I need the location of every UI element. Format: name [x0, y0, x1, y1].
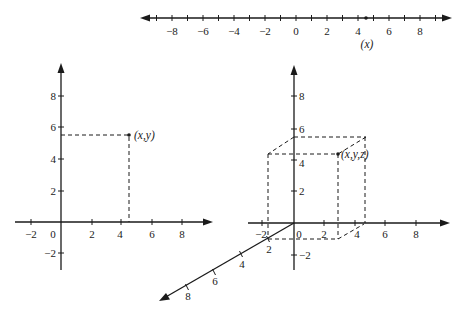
- tick-label: 6: [382, 228, 388, 240]
- tick-label: 4: [299, 157, 305, 169]
- tick-label: 2: [89, 228, 95, 240]
- point-x-marker: [364, 16, 368, 20]
- tick-label: 6: [149, 228, 155, 240]
- tick-label: 6: [212, 275, 218, 287]
- tick-label: −6: [197, 25, 209, 37]
- coordinate-diagram: −8 −6 −4 −2 0 2 4 6 8 (x) (x,y) −2: [0, 0, 463, 318]
- y-axis-arrow-icon: [159, 293, 170, 301]
- point-label-xy: (x,y): [134, 129, 155, 142]
- tick-label: −2: [255, 228, 267, 240]
- tick-label: −2: [299, 249, 311, 261]
- y-axis-arrow-icon: [58, 63, 65, 73]
- tick-label: 0: [293, 25, 299, 37]
- point-label-x: (x): [361, 38, 374, 51]
- tick-label: 8: [51, 90, 57, 102]
- tick-label: 4: [355, 25, 361, 37]
- tick-label: 4: [117, 228, 123, 240]
- point-label-xyz: (x,y,z): [341, 148, 369, 161]
- x-axis-arrow-icon: [203, 219, 213, 226]
- plane-2d: (x,y) −2 0 2 4 6 8 8 6 4 2 −2: [15, 63, 213, 270]
- tick-label: 4: [239, 258, 245, 270]
- tick-label: 8: [179, 228, 185, 240]
- tick-label: 0: [50, 228, 56, 240]
- tick-label: 6: [386, 25, 392, 37]
- tick-label: −2: [259, 25, 271, 37]
- point-xyz-marker: [336, 152, 340, 156]
- tick-label: −2: [44, 247, 56, 259]
- tick-label: −4: [228, 25, 240, 37]
- tick-label: −8: [166, 25, 178, 37]
- tick-label: 6: [51, 121, 57, 133]
- tick-label: 2: [299, 185, 305, 197]
- tick-label: 2: [51, 185, 57, 197]
- tick-label: 8: [185, 290, 191, 302]
- projection-lines: [61, 135, 129, 222]
- tick-label: 8: [413, 228, 419, 240]
- tick-label: 0: [296, 228, 302, 240]
- space-3d: (x,y,z) −2 0 2 4 6 8 8 6 4 2 −2 2 4 6 8: [159, 65, 450, 302]
- tick-label: 4: [354, 228, 360, 240]
- point-xy-marker: [127, 133, 131, 137]
- left-arrow-icon: [140, 15, 150, 22]
- right-arrow-icon: [442, 15, 452, 22]
- tick-label: 6: [299, 123, 305, 135]
- tick-label: −2: [25, 228, 37, 240]
- tick-label: 8: [299, 90, 305, 102]
- tick-label: 8: [417, 25, 423, 37]
- tick-label: 2: [266, 243, 272, 255]
- x-axis-arrow-icon: [440, 220, 450, 227]
- tick-label: 4: [51, 153, 57, 165]
- z-axis-arrow-icon: [291, 65, 298, 75]
- tick-label: 2: [321, 228, 327, 240]
- tick-label: 2: [324, 25, 330, 37]
- number-line: −8 −6 −4 −2 0 2 4 6 8 (x): [140, 15, 452, 52]
